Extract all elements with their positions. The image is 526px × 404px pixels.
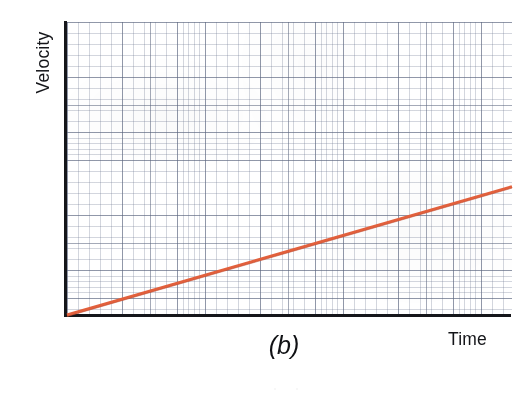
graph-paper-plot-area: [67, 22, 512, 315]
y-axis-line: [64, 21, 67, 317]
y-axis-label: Velocity: [33, 15, 54, 111]
x-axis-label: Time: [448, 329, 487, 350]
velocity-time-figure: Velocity Time (b): [0, 0, 526, 404]
scan-artifact: [271, 386, 311, 393]
x-axis-line: [64, 314, 511, 317]
panel-caption: (b): [256, 331, 312, 360]
